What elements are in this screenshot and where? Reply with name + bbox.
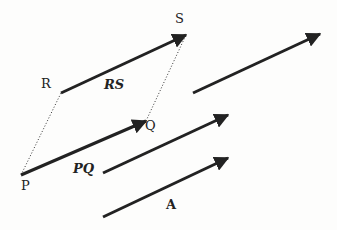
label-a: A bbox=[165, 197, 177, 212]
label-s: S bbox=[175, 11, 184, 26]
vector-diagram: S R Q P RS PQ A bbox=[0, 0, 337, 230]
dotted-edge-pr bbox=[21, 93, 61, 175]
vector-parallel-mid-arrow bbox=[103, 115, 228, 173]
label-p: P bbox=[21, 178, 30, 193]
label-r: R bbox=[41, 76, 52, 91]
vector-parallel-top-arrow bbox=[193, 34, 320, 93]
label-pq: PQ bbox=[72, 161, 95, 176]
dotted-edge-qs bbox=[146, 35, 186, 121]
label-q: Q bbox=[145, 118, 156, 133]
label-rs: RS bbox=[103, 77, 124, 92]
